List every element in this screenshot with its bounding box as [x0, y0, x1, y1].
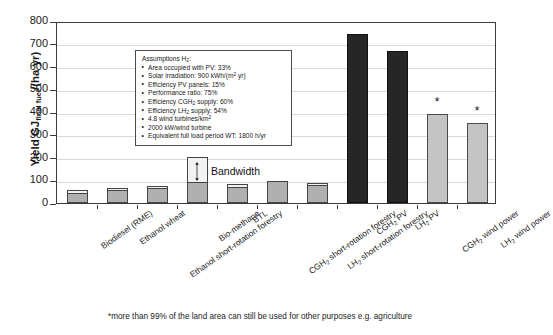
x-tick-mark — [377, 205, 378, 209]
bar-bandwidth-segment — [147, 186, 168, 188]
x-tick-mark — [177, 205, 178, 209]
assumptions-header: Assumptions H2: — [142, 55, 286, 64]
bar-bandwidth-segment — [307, 183, 328, 185]
assumption-item: Performance ratio: 75% — [141, 89, 286, 98]
assumptions-header-pre: Assumptions H — [142, 55, 186, 62]
assumption-item: 2000 kW/wind turbine — [141, 124, 286, 133]
assumptions-list: Area occupied with PV: 33%Solar irradiat… — [141, 64, 286, 141]
y-tick-label: 300 — [14, 128, 48, 140]
assumptions-box: Assumptions H2: Area occupied with PV: 3… — [135, 50, 292, 146]
bar-body — [147, 188, 168, 202]
bar-body — [267, 181, 288, 203]
bar-body — [67, 193, 88, 202]
assumptions-header-sub: 2 — [186, 57, 189, 63]
x-tick-label: Ethanol short-rotation forestry — [188, 208, 284, 279]
plot-area: ** Bandwidth Assumptions H2: Area occupi… — [56, 22, 496, 204]
bar-body — [467, 123, 488, 203]
x-tick-label: CGH2 wind power — [460, 208, 520, 254]
x-tick-mark — [297, 205, 298, 209]
x-tick-mark — [97, 205, 98, 209]
bar-bandwidth-segment — [107, 188, 128, 190]
x-tick-mark — [257, 205, 258, 209]
x-tick-mark — [137, 205, 138, 209]
bar-body — [187, 182, 208, 202]
bar: * — [427, 21, 448, 203]
x-tick-mark — [337, 205, 338, 209]
bar-body — [227, 187, 248, 203]
y-tick-mark — [50, 204, 56, 205]
assumption-item: Efficiency LH2 supply: 54% — [141, 107, 286, 116]
y-tick-label: 100 — [14, 173, 48, 185]
bar-body — [107, 190, 128, 203]
bar — [107, 21, 128, 203]
y-tick-label: 800 — [14, 14, 48, 26]
bar — [347, 21, 368, 203]
y-tick-label: 0 — [14, 196, 48, 208]
asterisk-marker: * — [467, 108, 488, 114]
bar-body — [427, 114, 448, 203]
bar — [387, 21, 408, 203]
bar-body — [347, 34, 368, 202]
y-tick-label: 600 — [14, 60, 48, 72]
assumption-item: Efficiency PV panels: 15% — [141, 81, 286, 90]
y-tick-label: 400 — [14, 105, 48, 117]
bar-body — [387, 51, 408, 202]
assumptions-header-post: : — [189, 55, 191, 62]
bandwidth-label: Bandwidth — [211, 165, 260, 177]
x-tick-mark — [217, 205, 218, 209]
bar-bandwidth-segment — [67, 190, 88, 193]
bar: * — [467, 21, 488, 203]
bar-body — [307, 185, 328, 203]
assumption-item: Efficiency CGH2 supply: 60% — [141, 98, 286, 107]
asterisk-marker: * — [427, 99, 448, 105]
x-tick-mark — [417, 205, 418, 209]
assumption-item: Area occupied with PV: 33% — [141, 64, 286, 73]
bar — [67, 21, 88, 203]
y-tick-label: 200 — [14, 151, 48, 163]
x-tick-mark — [457, 205, 458, 209]
assumption-item: 4.8 wind turbines/km2 — [141, 115, 286, 124]
bandwidth-arrow-icon — [191, 162, 203, 181]
y-tick-label: 700 — [14, 37, 48, 49]
assumption-item: Equivalent full load period WT: 1800 h/y… — [141, 132, 286, 141]
footnote: *more than 99% of the land area can stil… — [108, 312, 412, 321]
bar-bandwidth-segment — [227, 184, 248, 186]
assumption-item: Solar irradiation: 900 kWh/(m2 yr) — [141, 72, 286, 81]
bar — [307, 21, 328, 203]
y-tick-label: 500 — [14, 82, 48, 94]
